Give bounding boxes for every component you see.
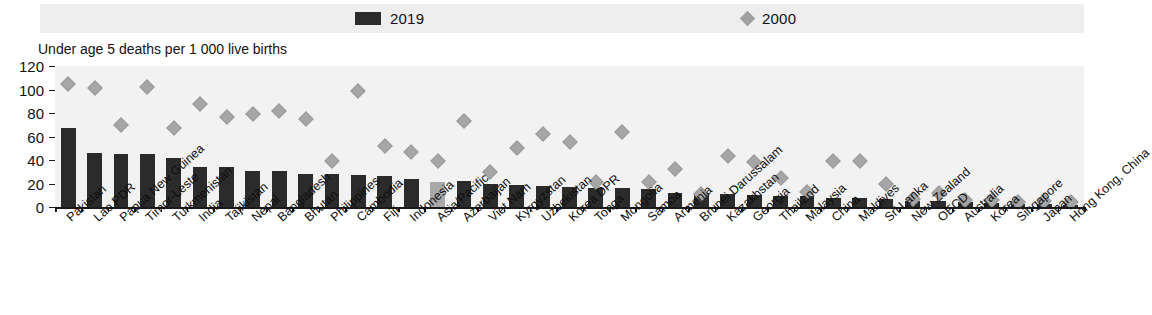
marker-timor-leste	[140, 79, 156, 95]
legend-item-2019: 2019	[355, 10, 424, 27]
y-axis-tick-label: 100	[10, 81, 44, 98]
marker-kazakhstan	[720, 149, 736, 165]
marker-kyrgyzstan	[509, 140, 525, 156]
legend-item-2000: 2000	[740, 10, 796, 27]
marker-asia-pacific	[430, 153, 446, 169]
bar-swatch-icon	[355, 12, 381, 25]
marker-india	[192, 96, 208, 112]
marker-lao-pdr	[87, 81, 103, 97]
marker-china	[826, 153, 842, 169]
marker-maldives	[852, 153, 868, 169]
y-axis-tick-label: 40	[10, 152, 44, 169]
y-axis-tick-label: 60	[10, 128, 44, 145]
marker-azerbaijan	[456, 113, 472, 129]
y-axis-tick-label: 0	[10, 199, 44, 216]
y-axis-tick-label: 20	[10, 175, 44, 192]
y-axis-tick-label: 120	[10, 58, 44, 75]
marker-indonesia	[403, 144, 419, 160]
marker-korea-dpr	[562, 135, 578, 151]
bar-pakistan	[61, 128, 76, 207]
chart-axis-title: Under age 5 deaths per 1 000 live births	[38, 41, 287, 57]
marker-pakistan	[60, 76, 76, 92]
marker-uzbekistan	[535, 126, 551, 142]
marker-bangladesh	[271, 103, 287, 119]
marker-nepal	[245, 106, 261, 122]
legend-label-2000: 2000	[762, 10, 796, 27]
marker-tajikistan	[219, 109, 235, 125]
marker-bhutan	[298, 111, 314, 127]
chart-legend: 2019 2000	[40, 4, 1084, 33]
marker-papua-new-guinea	[113, 117, 129, 133]
x-axis-labels: PakistanLao PDRPapua New GuineaTimor-Les…	[55, 212, 1084, 315]
marker-cambodia	[351, 83, 367, 99]
marker-armenia	[667, 162, 683, 178]
diamond-swatch-icon	[740, 11, 756, 27]
marker-philippines	[324, 153, 340, 169]
legend-label-2019: 2019	[390, 10, 424, 27]
y-axis-tick-label: 80	[10, 105, 44, 122]
marker-mongolia	[614, 124, 630, 140]
marker-turkmenistan	[166, 121, 182, 137]
marker-fiji	[377, 138, 393, 154]
bar-indonesia	[404, 179, 419, 207]
